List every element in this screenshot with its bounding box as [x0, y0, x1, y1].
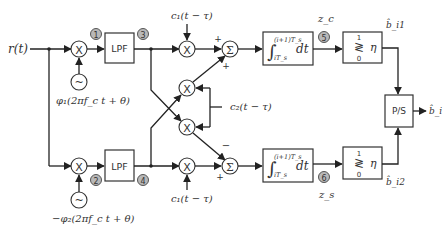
badge-point-1: 1	[91, 29, 102, 40]
badge-point-4: 4	[138, 175, 149, 186]
lower-branch: X ~ −φ₂(2πf_c t + θ) 2 LPF 4 X c₁(t − τ)	[52, 128, 405, 225]
summer-upper: Σ + +	[214, 34, 238, 71]
multiply-icon: X	[183, 122, 191, 135]
threshold-detector-lower: 1 ≷ η 0	[343, 147, 382, 179]
code-label-upper: c₁(t − τ)	[171, 10, 213, 21]
oscillator-upper: ~ φ₁(2πf_c t + θ)	[56, 58, 130, 107]
svg-text:iT_s: iT_s	[274, 171, 288, 179]
multiply-icon: X	[75, 44, 83, 57]
input-label: r(t)	[8, 42, 28, 56]
compare-icon: ≷	[354, 156, 364, 170]
svg-text:η: η	[370, 41, 377, 54]
badge-point-2: 2	[91, 175, 102, 186]
sigma-icon: Σ	[226, 44, 234, 57]
svg-text:iT_s: iT_s	[274, 54, 288, 62]
code-mixer-upper: X c₁(t − τ)	[171, 10, 213, 57]
sign-minus: −	[222, 140, 230, 151]
code-mixer-lower: X c₁(t − τ)	[171, 158, 213, 204]
svg-text:P/S: P/S	[392, 106, 406, 116]
multiply-icon: X	[183, 83, 191, 96]
oscillator-lower-label: −φ₂(2πf_c t + θ)	[52, 213, 134, 225]
multiply-icon: X	[75, 161, 83, 174]
badge-point-6: 6	[319, 172, 330, 183]
final-output-bit: b̂_i	[429, 104, 442, 117]
mixer-upper: X	[71, 41, 87, 57]
decision-var-zc: z_c	[317, 13, 334, 25]
summer-lower: Σ − +	[216, 140, 238, 182]
svg-text:dt: dt	[296, 159, 309, 173]
oscillator-upper-label: φ₁(2πf_c t + θ)	[56, 95, 130, 107]
badge-point-3: 3	[138, 29, 149, 40]
output-bit-upper: b̂_i1	[386, 18, 405, 31]
svg-text:LPF: LPF	[111, 161, 128, 172]
output-bit-lower: b̂_i2	[386, 175, 405, 188]
parallel-to-serial: P/S	[385, 95, 413, 127]
decision-var-zs: z_s	[318, 189, 334, 201]
code-label-lower: c₁(t − τ)	[171, 193, 213, 204]
sign-plus-bottom: +	[222, 61, 230, 71]
cross-coupling: X X c₂(t − τ)	[151, 49, 272, 166]
svg-text:0: 0	[357, 55, 361, 63]
svg-text:2: 2	[93, 177, 98, 186]
svg-text:0: 0	[357, 171, 361, 179]
sine-wave-icon: ~	[74, 194, 83, 207]
code-label-cross: c₂(t − τ)	[230, 101, 272, 112]
receiver-block-diagram: r(t) X ~ φ₁(2πf_c t + θ) 1 LPF	[0, 0, 444, 236]
cross-mixer-upper: X	[179, 80, 195, 96]
cross-mixer-lower: X	[179, 119, 195, 135]
lpf-lower: LPF	[105, 150, 134, 181]
threshold-detector-upper: 1 ≷ η 0	[343, 32, 382, 63]
sign-plus-top: +	[214, 34, 222, 44]
svg-text:4: 4	[140, 177, 145, 186]
svg-text:1: 1	[93, 31, 98, 40]
svg-text:3: 3	[140, 31, 145, 40]
sigma-icon: Σ	[226, 161, 234, 174]
mixer-lower: X	[71, 158, 87, 174]
compare-icon: ≷	[354, 40, 364, 54]
integrator-lower: ∫ (i+1)T_s iT_s dt	[263, 149, 313, 182]
svg-text:dt: dt	[296, 42, 309, 56]
sine-wave-icon: ~	[74, 76, 83, 89]
svg-text:η: η	[370, 157, 377, 170]
svg-text:5: 5	[321, 34, 326, 43]
sign-plus-lower: +	[216, 172, 224, 182]
integrator-upper: ∫ (i+1)T_s iT_s dt	[263, 32, 313, 65]
upper-branch: X ~ φ₁(2πf_c t + θ) 1 LPF 3 X	[56, 10, 405, 107]
multiply-icon: X	[183, 44, 191, 57]
svg-text:6: 6	[321, 174, 326, 183]
multiply-icon: X	[183, 161, 191, 174]
svg-text:LPF: LPF	[111, 43, 128, 54]
badge-point-5: 5	[319, 32, 330, 43]
lpf-upper: LPF	[105, 33, 134, 63]
